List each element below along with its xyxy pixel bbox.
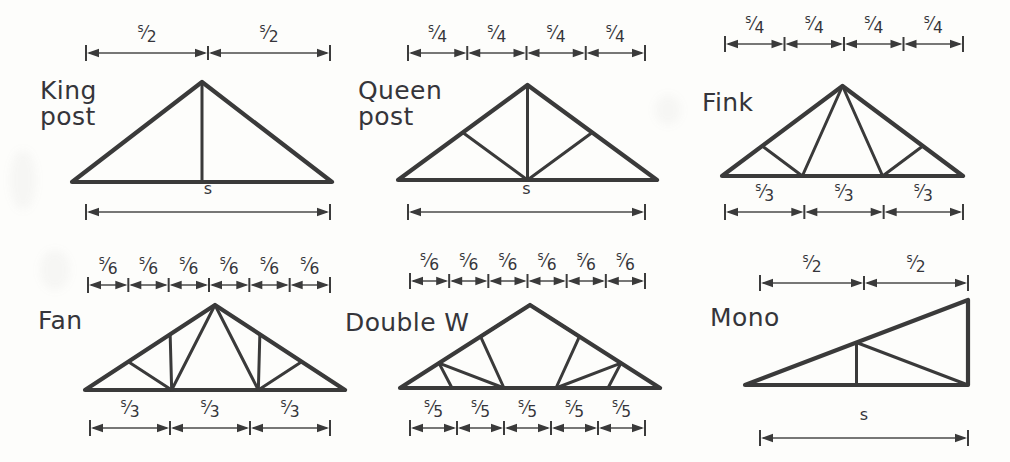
dim-arrowhead bbox=[955, 434, 967, 442]
dim-arrowhead bbox=[955, 279, 967, 287]
dim-arrowhead bbox=[865, 279, 877, 287]
truss-web-member bbox=[857, 343, 969, 386]
dim-label: s⁄2 bbox=[802, 250, 821, 276]
truss-name-mono: Mono bbox=[710, 305, 780, 331]
dim-label: s⁄2 bbox=[906, 250, 925, 276]
dimension-line-mono-bottom bbox=[760, 430, 968, 446]
dimension-line-mono-top bbox=[760, 275, 968, 291]
dim-arrowhead bbox=[761, 279, 773, 287]
dim-arrowhead bbox=[851, 279, 863, 287]
dim-arrowhead bbox=[761, 434, 773, 442]
truss-panel-mono: s⁄2s⁄2sMono bbox=[0, 0, 1010, 462]
truss-diagram-sheet: s⁄2s⁄2sKing posts⁄4s⁄4s⁄4s⁄4sQueen posts… bbox=[0, 0, 1010, 462]
truss-drawing-mono bbox=[0, 0, 1010, 462]
dim-label: s bbox=[860, 405, 868, 424]
